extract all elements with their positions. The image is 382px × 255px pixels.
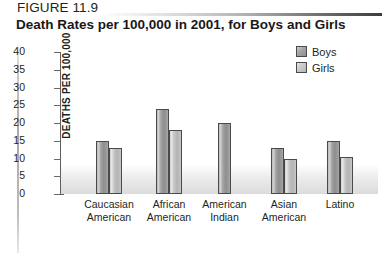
legend-swatch-girls — [296, 62, 307, 73]
chart-legend: Boys Girls — [296, 44, 382, 76]
legend-item-boys: Boys — [296, 44, 382, 59]
y-tick-label: 30 — [13, 81, 25, 93]
y-tick-label: 25 — [13, 98, 25, 110]
bar-girls — [284, 159, 297, 195]
bar-group — [96, 141, 122, 194]
y-tick-label: 15 — [13, 134, 25, 146]
bar-girls — [109, 148, 122, 194]
y-tick-label: 35 — [13, 63, 25, 75]
y-tick-label: 10 — [13, 152, 25, 164]
bar-boys — [218, 123, 231, 194]
bar-boys — [327, 141, 340, 194]
x-category-label: Latino — [300, 198, 380, 211]
figure-number: FIGURE 11.9 — [17, 0, 98, 15]
y-tick-label: 20 — [13, 116, 25, 128]
chart-plot-wrapper: DEATHS PER 100,000 4035302520151050 Cauc… — [28, 42, 382, 255]
y-tick-label: 5 — [19, 169, 25, 181]
bar-group — [218, 123, 231, 194]
bar-boys — [271, 148, 284, 194]
y-tick-label: 40 — [13, 45, 25, 57]
header-rule — [100, 13, 382, 16]
bar-girls — [340, 157, 353, 194]
bar-group — [156, 109, 182, 194]
legend-label-girls: Girls — [312, 62, 335, 74]
bar-group — [327, 141, 353, 194]
figure-container: FIGURE 11.9 Death Rates per 100,000 in 2… — [0, 0, 382, 255]
legend-item-girls: Girls — [296, 60, 382, 75]
legend-label-boys: Boys — [312, 46, 336, 58]
y-tick-mark — [54, 194, 60, 195]
bar-group — [271, 148, 297, 194]
legend-swatch-boys — [296, 46, 307, 57]
bar-boys — [156, 109, 169, 194]
y-tick-label: 0 — [19, 187, 25, 199]
bar-girls — [169, 130, 182, 194]
bar-boys — [96, 141, 109, 194]
x-axis-baseline — [60, 194, 64, 195]
